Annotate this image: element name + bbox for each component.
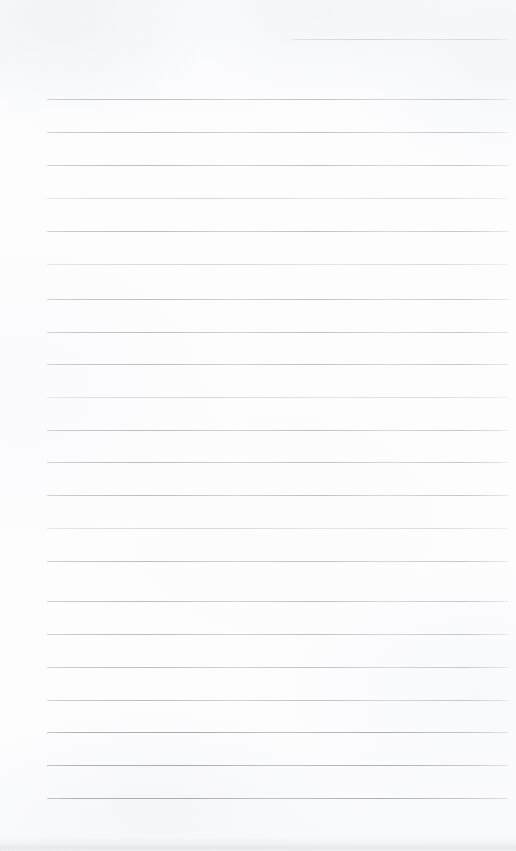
scan-bottom-shadow [0,837,516,851]
ruled-line [47,165,508,166]
ruled-line [47,765,508,766]
ruled-line [47,528,508,529]
ruled-line [47,462,508,463]
ruled-line [47,732,508,733]
ruled-line [47,667,508,668]
ruled-line [47,561,508,562]
ruled-line [47,231,508,232]
ruled-line [47,132,508,133]
ruled-line [47,364,508,365]
ruled-line [47,798,508,799]
ruled-line [47,397,508,398]
paper-page [0,0,516,851]
paper-texture-overlay [0,0,516,851]
ruled-line [47,601,508,602]
ruled-line [47,198,508,199]
header-rule [292,39,508,40]
ruled-line [47,700,508,701]
ruled-line [47,430,508,431]
ruled-line [47,99,508,100]
ruled-line [47,299,508,300]
ruled-line [47,332,508,333]
ruled-line [47,634,508,635]
ruled-line [47,264,508,265]
ruled-line [47,495,508,496]
